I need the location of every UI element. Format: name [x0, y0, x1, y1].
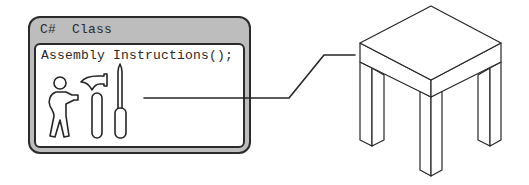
- person-icon: [49, 77, 78, 137]
- screwdriver-icon: [115, 64, 126, 138]
- table-leg-right: [478, 62, 501, 146]
- connector-line: [144, 55, 355, 98]
- table-leg-left: [360, 62, 384, 146]
- hammer-icon: [81, 74, 107, 138]
- table-icon: [360, 6, 501, 176]
- diagram-canvas: C# Class Assembly Instructions();: [0, 0, 529, 185]
- table-leg-front: [420, 91, 442, 176]
- diagram-graphics: [0, 0, 529, 185]
